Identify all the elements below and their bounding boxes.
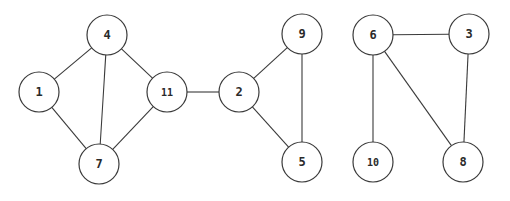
node-6: 6 bbox=[353, 15, 393, 55]
node-3: 3 bbox=[449, 14, 489, 54]
node-label: 8 bbox=[459, 155, 466, 169]
edge-1-7 bbox=[52, 107, 86, 148]
graph-diagram: 4171129563108 bbox=[0, 0, 510, 201]
edge-2-9 bbox=[254, 48, 288, 79]
node-label: 3 bbox=[465, 27, 472, 41]
node-label: 2 bbox=[235, 85, 242, 99]
node-5: 5 bbox=[282, 142, 322, 182]
node-2: 2 bbox=[219, 72, 259, 112]
edge-4-11 bbox=[121, 49, 152, 78]
node-label: 7 bbox=[95, 157, 102, 171]
edge-4-7 bbox=[100, 55, 106, 144]
edge-6-3 bbox=[393, 34, 449, 35]
edge-6-8 bbox=[385, 51, 452, 145]
node-7: 7 bbox=[79, 144, 119, 184]
node-1: 1 bbox=[19, 72, 59, 112]
edge-2-5 bbox=[252, 107, 288, 147]
node-label: 4 bbox=[103, 28, 110, 42]
edge-4-1 bbox=[54, 48, 91, 79]
node-9: 9 bbox=[282, 14, 322, 54]
node-label: 6 bbox=[369, 28, 376, 42]
node-label: 11 bbox=[161, 87, 173, 98]
node-4: 4 bbox=[87, 15, 127, 55]
node-10: 10 bbox=[353, 142, 393, 182]
node-label: 5 bbox=[298, 155, 305, 169]
node-label: 10 bbox=[367, 157, 379, 168]
edge-3-8 bbox=[464, 54, 468, 142]
node-11: 11 bbox=[147, 72, 187, 112]
node-label: 9 bbox=[298, 27, 305, 41]
node-8: 8 bbox=[443, 142, 483, 182]
node-label: 1 bbox=[35, 85, 42, 99]
edge-7-11 bbox=[113, 107, 154, 150]
